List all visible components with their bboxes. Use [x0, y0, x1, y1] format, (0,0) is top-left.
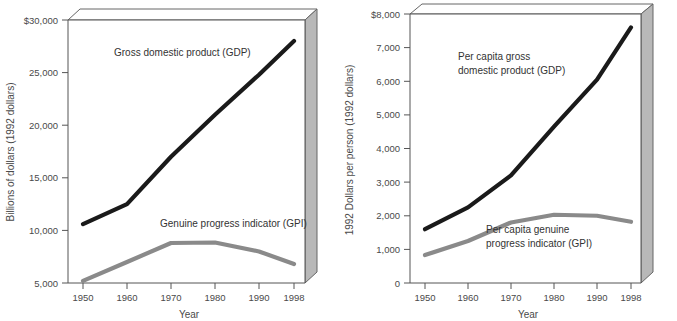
box-right-face [305, 9, 317, 283]
annotation-gpi-line1: Per capita genuine [486, 224, 570, 235]
y-tick-label: 10,000 [29, 225, 58, 236]
x-tick-label: 1960 [116, 292, 137, 303]
x-tick-label: 1950 [414, 292, 435, 303]
box-top-face [410, 4, 653, 14]
x-tick-label: 1998 [283, 292, 304, 303]
y-tick-label: $8,000 [371, 9, 400, 20]
chart-panel-left: 5,000 10,000 15,000 20,000 25,000 $30,00… [0, 0, 340, 321]
y-axis-title: Billions of dollars (1992 dollars) [5, 83, 16, 222]
annotation-gpi: Genuine progress indicator (GPI) [160, 218, 307, 229]
y-axis-ticks-right [404, 14, 410, 283]
y-axis-ticks-left [62, 20, 68, 283]
x-tick-label: 1970 [160, 292, 181, 303]
annotation-gpi-line2: progress indicator (GPI) [486, 238, 592, 249]
y-tick-label: 7,000 [376, 42, 400, 53]
box-right-face [641, 4, 653, 283]
x-axis-title: Year [518, 309, 539, 320]
y-axis-title: 1992 Dollars per person (1992 dollars) [344, 65, 355, 236]
y-tick-label: 25,000 [29, 67, 58, 78]
x-tick-label: 1960 [457, 292, 478, 303]
left-chart-svg: 5,000 10,000 15,000 20,000 25,000 $30,00… [0, 0, 340, 321]
box-top-face [68, 9, 317, 20]
x-tick-label: 1980 [204, 292, 225, 303]
annotation-gdp-line1: Per capita gross [458, 51, 530, 62]
y-tick-label: 15,000 [29, 172, 58, 183]
chart-panel-right: 0 1,000 2,000 3,000 4,000 5,000 6,000 7,… [340, 0, 677, 321]
x-axis-title: Year [179, 309, 200, 320]
y-tick-label: 3,000 [376, 177, 400, 188]
x-tick-label: 1990 [586, 292, 607, 303]
x-tick-label: 1970 [500, 292, 521, 303]
x-tick-label: 1998 [620, 292, 641, 303]
y-tick-label: 5,000 [34, 278, 58, 289]
y-tick-label: 0 [395, 278, 400, 289]
annotation-gdp: Gross domestic product (GDP) [114, 47, 251, 58]
y-tick-label: 5,000 [376, 109, 400, 120]
x-tick-label: 1990 [248, 292, 269, 303]
x-axis-ticks-left [83, 283, 294, 289]
right-chart-svg: 0 1,000 2,000 3,000 4,000 5,000 6,000 7,… [340, 0, 677, 321]
x-axis-ticks-right [425, 283, 631, 289]
y-tick-label: 20,000 [29, 120, 58, 131]
y-tick-label: 4,000 [376, 143, 400, 154]
annotation-gdp-line2: domestic product (GDP) [458, 65, 565, 76]
two-panel-line-chart-figure: 5,000 10,000 15,000 20,000 25,000 $30,00… [0, 0, 677, 321]
y-tick-label: $30,000 [24, 15, 58, 26]
x-tick-label: 1950 [72, 292, 93, 303]
y-tick-label: 1,000 [376, 244, 400, 255]
y-tick-label: 2,000 [376, 210, 400, 221]
y-tick-label: 6,000 [376, 76, 400, 87]
x-tick-label: 1980 [543, 292, 564, 303]
